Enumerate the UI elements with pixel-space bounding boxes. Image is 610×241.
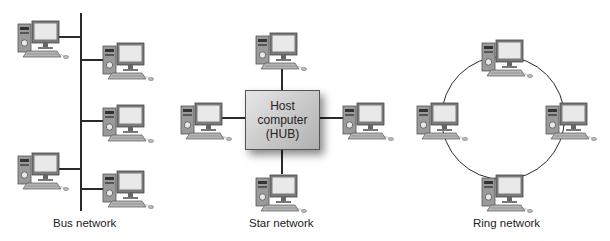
computer-icon (342, 100, 394, 144)
bus-drop-line (80, 188, 104, 190)
computer-icon (416, 100, 468, 144)
computer-icon (102, 102, 154, 146)
star-link-bottom (281, 148, 283, 174)
star-link-right (318, 117, 344, 119)
computer-icon (255, 30, 307, 74)
computer-icon (102, 40, 154, 84)
hub-label-line1: Host (270, 99, 295, 113)
computer-icon (481, 37, 533, 81)
computer-icon (545, 100, 597, 144)
star-network-caption: Star network (249, 217, 314, 229)
computer-icon (17, 18, 69, 62)
computer-icon (17, 150, 69, 194)
hub-label-line2: computer (257, 113, 307, 127)
bus-drop-line (80, 120, 104, 122)
computer-icon (102, 168, 154, 212)
ring-network-caption: Ring network (473, 217, 540, 229)
hub-label-line3: (HUB) (266, 127, 299, 141)
host-computer-hub: Host computer (HUB) (245, 90, 320, 150)
bus-backbone-line (80, 13, 82, 211)
bus-network-caption: Bus network (53, 217, 116, 229)
computer-icon (255, 172, 307, 216)
computer-icon (481, 172, 533, 216)
computer-icon (180, 100, 232, 144)
network-topologies-figure: Bus network Host computer (HUB) Star net… (0, 0, 610, 241)
bus-drop-line (80, 59, 104, 61)
